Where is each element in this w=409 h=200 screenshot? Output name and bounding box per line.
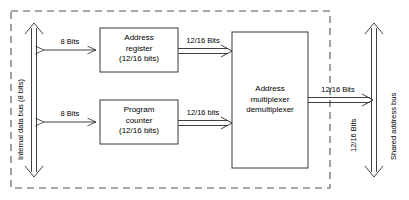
internal-data-bus-label: Internal data bus (8 bits): [16, 79, 25, 160]
program-counter-label: Program counter (12/16 bits): [100, 105, 178, 137]
connection-program-counter-to-mux: [178, 117, 232, 129]
program-counter-line2: counter: [100, 116, 178, 127]
internal-data-bus: [25, 23, 43, 177]
diagram-vector-layer: [0, 0, 409, 200]
shared-address-bus: [365, 23, 383, 177]
address-mux-demux-line2: multiplexer: [232, 95, 308, 106]
program-counter-line1: Program: [100, 105, 178, 116]
address-register-label: Address register (12/16 bits): [100, 33, 178, 65]
program-counter-line3: (12/16 bits): [100, 126, 178, 137]
label-8-bits-upper: 8 Bits: [44, 37, 96, 46]
diagram-canvas: Internal data bus (8 bits) Address regis…: [0, 0, 409, 200]
shared-bus-width-label: 12/16 Bits: [349, 119, 358, 152]
label-12-16-bits-upper: 12/16 Bits: [178, 36, 228, 45]
label-12-16-bits-lower: 12/16 bits: [178, 108, 228, 117]
connection-address-register-to-mux: [178, 45, 232, 57]
address-mux-demux-line1: Address: [232, 84, 308, 95]
label-8-bits-lower: 8 Bits: [44, 109, 96, 118]
address-register-line3: (12/16 bits): [100, 54, 178, 65]
address-register-line2: register: [100, 44, 178, 55]
address-mux-demux-label: Address multiplexer demultiplexer: [232, 84, 308, 116]
label-12-16-bits-output: 12/16 Bits: [310, 85, 366, 94]
address-mux-demux-line3: demultiplexer: [232, 105, 308, 116]
connection-mux-to-shared-bus: [308, 94, 373, 106]
address-register-line1: Address: [100, 33, 178, 44]
shared-address-bus-label: Shared address bus: [389, 93, 398, 160]
